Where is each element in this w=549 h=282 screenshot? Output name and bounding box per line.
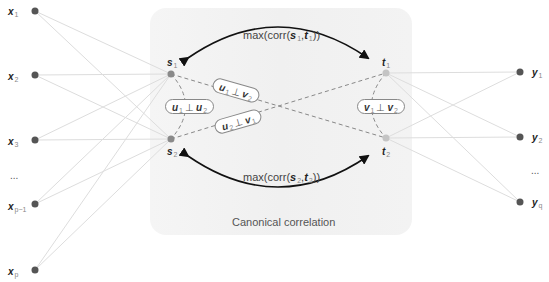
s2-node [168, 136, 175, 143]
top-correlation-formula: max(corr(s1,t1)) [243, 29, 320, 42]
x3-label: x3 [8, 137, 18, 148]
y2-label: y2 [532, 133, 542, 144]
bottom-correlation-formula: max(corr(s2,t2)) [243, 171, 320, 184]
diagram-canvas [0, 0, 549, 282]
v1-perp-v2-badge: v1⊥v2 [357, 99, 405, 114]
xp-1-label: xp−1 [8, 202, 26, 213]
t1-label: t1 [382, 58, 390, 69]
u1-perp-u2-badge: u1⊥u2 [165, 99, 214, 114]
x1-label: x1 [8, 7, 18, 18]
y-nodes [517, 69, 524, 206]
xp-label: xp [8, 267, 18, 278]
y-ellipsis: ... [531, 165, 539, 176]
t1-node [383, 70, 390, 77]
yq-label: yq [532, 198, 542, 209]
t2-label: t2 [382, 147, 390, 158]
canonical-correlation-panel [150, 8, 412, 235]
x-ellipsis: ... [10, 170, 18, 181]
s2-label: s2 [167, 147, 177, 158]
panel-caption: Canonical correlation [232, 216, 335, 228]
x-nodes [32, 8, 39, 274]
t2-node [383, 135, 390, 142]
x2-label: x2 [8, 72, 18, 83]
s1-label: s1 [167, 58, 177, 69]
s1-node [168, 71, 175, 78]
y1-label: y1 [532, 68, 542, 79]
